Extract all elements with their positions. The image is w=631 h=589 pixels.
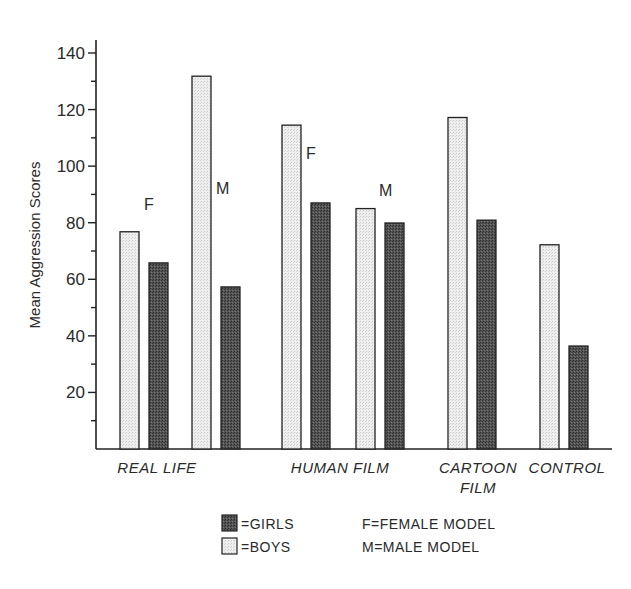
model-annotation: F — [144, 196, 154, 213]
model-annotation: F — [306, 145, 316, 162]
y-tick-label: 100 — [57, 157, 85, 176]
category-label: FILM — [460, 479, 496, 496]
y-tick-label: 40 — [66, 327, 85, 346]
y-tick-label: 60 — [66, 270, 85, 289]
model-annotation: M — [379, 182, 392, 199]
bar-girls — [385, 223, 404, 449]
category-label: CONTROL — [529, 459, 606, 476]
y-tick-label: 120 — [57, 101, 85, 120]
bar-girls — [569, 346, 588, 449]
bar-chart: 20406080100120140Mean Aggression Scores … — [0, 0, 631, 589]
category-label: HUMAN FILM — [291, 459, 389, 476]
legend-label: =BOYS — [241, 539, 291, 555]
bar-girls — [311, 203, 330, 449]
y-tick-label: 140 — [57, 44, 85, 63]
bar-boys — [192, 76, 211, 449]
bars: FMFM — [120, 76, 588, 449]
legend-label: =GIRLS — [241, 516, 294, 532]
bar-boys — [356, 209, 375, 449]
bar-boys — [120, 232, 139, 449]
bar-girls — [149, 263, 168, 449]
legend-note: M=MALE MODEL — [362, 539, 480, 555]
bar-girls — [221, 287, 240, 449]
category-label: REAL LIFE — [117, 459, 197, 476]
legend: =GIRLS=BOYSF=FEMALE MODELM=MALE MODEL — [222, 515, 495, 555]
bar-boys — [282, 125, 301, 449]
bar-boys — [448, 117, 467, 449]
bar-boys — [540, 245, 559, 449]
category-labels: REAL LIFEHUMAN FILMCARTOONFILMCONTROL — [117, 459, 605, 496]
y-tick-label: 80 — [66, 214, 85, 233]
legend-swatch-boys — [222, 538, 237, 554]
y-tick-label: 20 — [66, 383, 85, 402]
y-axis-label: Mean Aggression Scores — [26, 162, 43, 329]
legend-note: F=FEMALE MODEL — [362, 516, 495, 532]
legend-swatch-girls — [222, 515, 237, 531]
bar-girls — [477, 220, 496, 449]
category-label: CARTOON — [439, 459, 517, 476]
model-annotation: M — [216, 180, 229, 197]
